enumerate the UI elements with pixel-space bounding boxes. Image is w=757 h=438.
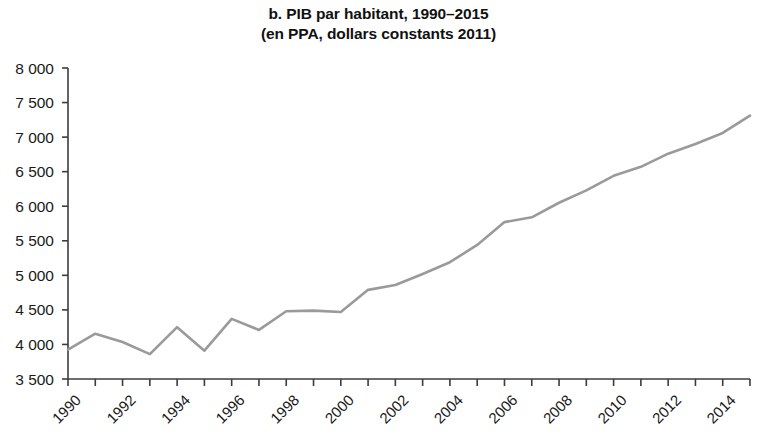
x-axis-tick-label: 1992 <box>103 391 139 427</box>
x-axis-tick-label: 2006 <box>485 391 521 427</box>
x-axis-tick-marks <box>68 379 750 386</box>
x-axis-tick-label: 2004 <box>430 391 466 427</box>
x-axis-tick-label: 2000 <box>321 391 357 427</box>
x-axis-tick-label: 2008 <box>540 391 576 427</box>
x-axis-tick-label: 2002 <box>376 391 412 427</box>
y-axis-tick-label: 4 500 <box>15 301 54 318</box>
x-axis-tick-label: 1994 <box>158 391 194 427</box>
y-axis-tick-label: 3 500 <box>15 371 54 388</box>
x-axis-tick-labels: 1990199219941996199820002002200420062008… <box>49 391 739 427</box>
chart-figure: b. PIB par habitant, 1990–2015 (en PPA, … <box>0 0 757 438</box>
x-axis-tick-label: 1990 <box>49 391 85 427</box>
y-axis-tick-label: 8 000 <box>15 60 54 77</box>
x-axis-tick-label: 2012 <box>649 391 685 427</box>
y-axis-tick-label: 6 500 <box>15 163 54 180</box>
x-axis-tick-label: 2014 <box>703 391 739 427</box>
data-series-line <box>68 116 750 354</box>
y-axis-tick-label: 7 000 <box>15 129 54 146</box>
y-axis-tick-labels: 8 0007 5007 0006 5006 0005 5005 0004 500… <box>15 60 54 388</box>
y-axis-tick-label: 6 000 <box>15 198 54 215</box>
x-axis-tick-label: 2010 <box>594 391 630 427</box>
x-axis-tick-label: 1998 <box>267 391 303 427</box>
chart-plot-area: 8 0007 5007 0006 5006 0005 5005 0004 500… <box>0 0 757 438</box>
y-axis-tick-label: 7 500 <box>15 94 54 111</box>
y-axis-tick-label: 5 000 <box>15 267 54 284</box>
y-axis-tick-label: 5 500 <box>15 232 54 249</box>
x-axis-tick-label: 1996 <box>212 391 248 427</box>
y-axis-tick-label: 4 000 <box>15 336 54 353</box>
y-axis-tick-marks <box>62 68 68 379</box>
